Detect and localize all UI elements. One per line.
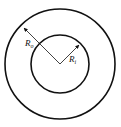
outer-radius-label: Ro bbox=[24, 38, 34, 49]
inner-radius-label: Ri bbox=[68, 54, 77, 65]
annulus-diagram: Ro Ri bbox=[0, 0, 121, 127]
